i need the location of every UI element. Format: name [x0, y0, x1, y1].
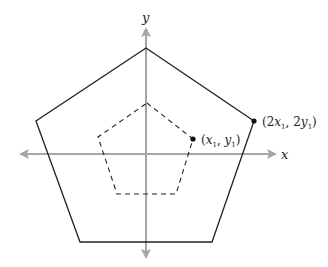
inner-point-dot: [190, 136, 195, 141]
y-axis-label: y: [141, 10, 150, 25]
pentagon-dilation-diagram: y x (x1, y1) (2x1, 2y1): [0, 0, 328, 267]
x-axis-label: x: [281, 147, 289, 162]
inner-point-label: (x1, y1): [201, 133, 241, 149]
outer-point-dot: [251, 118, 256, 123]
outer-point-label: (2x1, 2y1): [262, 115, 317, 131]
